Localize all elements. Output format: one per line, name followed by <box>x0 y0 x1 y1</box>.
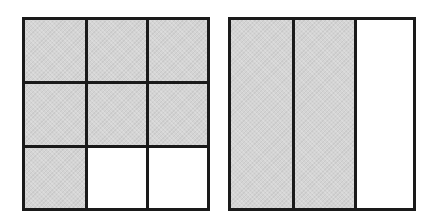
grid-divider-horizontal-2 <box>25 145 207 148</box>
grid-cell-r2-c0 <box>25 146 86 208</box>
grid-cell-r0-c0 <box>25 20 86 82</box>
strip-divider-vertical-2 <box>354 20 357 208</box>
strip-cell-c1 <box>293 20 355 208</box>
strip-cell-c0 <box>231 20 293 208</box>
grid-cell-r1-c1 <box>86 82 147 146</box>
grid-divider-horizontal-1 <box>25 81 207 84</box>
strip-divider-vertical-1 <box>292 20 295 208</box>
grid-divider-vertical-1 <box>85 20 88 208</box>
grid-divider-vertical-2 <box>146 20 149 208</box>
grid-cell-r0-c1 <box>86 20 147 82</box>
grid-cell-r1-c0 <box>25 82 86 146</box>
grid-cell-r1-c2 <box>147 82 207 146</box>
left-grid-figure <box>22 17 210 211</box>
strip-cell-c2 <box>355 20 413 208</box>
grid-cell-r0-c2 <box>147 20 207 82</box>
grid-cell-r2-c1 <box>86 146 147 208</box>
right-strips-figure <box>228 17 416 211</box>
grid-cell-r2-c2 <box>147 146 207 208</box>
